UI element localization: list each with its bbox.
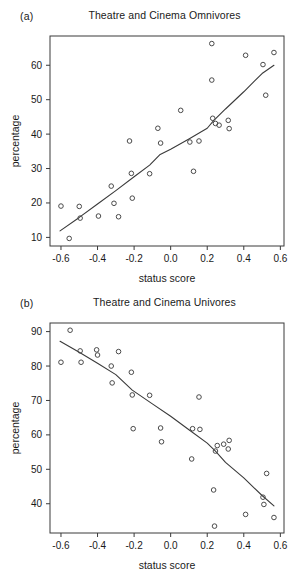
data-point [215,443,220,448]
panel-a-plot: -0.6-0.4-0.20.00.20.40.6102030405060stat… [0,0,307,288]
data-point [158,141,163,146]
data-point [188,140,193,145]
data-point [197,395,202,400]
plot-frame [50,36,284,246]
x-tick-label: 0.2 [200,540,214,551]
data-point [94,348,99,353]
x-tick-label: 0.0 [164,253,178,264]
data-point [59,360,64,365]
data-point [209,41,214,46]
x-tick-label: 0.2 [200,253,214,264]
data-point [264,471,269,476]
data-point [243,53,248,58]
x-tick-label: 0.0 [164,540,178,551]
data-point [77,204,82,209]
fit-line [60,65,274,231]
data-point [226,118,231,123]
x-tick-label: -0.4 [89,540,107,551]
data-point [158,426,163,431]
data-point [190,426,195,431]
x-tick-label: -0.6 [52,253,70,264]
data-point [191,169,196,174]
data-point [147,393,152,398]
y-tick-label: 60 [31,429,43,440]
x-tick-label: -0.2 [125,253,143,264]
x-tick-label: -0.4 [89,253,107,264]
data-point [112,201,117,206]
data-point [68,328,73,333]
y-tick-label: 50 [31,94,43,105]
y-axis-label: percentage [9,402,21,455]
data-point [211,488,216,493]
data-point [156,126,161,131]
data-point [130,393,135,398]
data-point [210,116,215,121]
x-tick-label: 0.4 [237,540,251,551]
data-point [147,171,152,176]
data-point [159,439,164,444]
data-point [227,438,232,443]
data-point [116,214,121,219]
y-tick-label: 40 [31,129,43,140]
y-tick-label: 50 [31,464,43,475]
data-point [209,78,214,83]
y-tick-label: 80 [31,361,43,372]
data-point [116,349,121,354]
data-point [59,204,64,209]
y-tick-label: 90 [31,326,43,337]
panel-b: (b) Theatre and Cinema Univores -0.6-0.4… [0,287,307,575]
data-point [129,370,134,375]
data-point [198,427,203,432]
data-point [226,447,231,452]
data-point [178,108,183,113]
data-point [127,139,132,144]
data-point [243,512,248,517]
y-tick-label: 30 [31,163,43,174]
data-point [110,381,115,386]
x-tick-label: -0.6 [52,540,70,551]
panel-a: (a) Theatre and Cinema Omnivores -0.6-0.… [0,0,307,288]
data-point [79,360,84,365]
x-tick-label: 0.4 [237,253,251,264]
data-point [67,236,72,241]
data-point [272,50,277,55]
data-point [221,442,226,447]
data-point [129,171,134,176]
y-axis-label: percentage [9,115,21,168]
y-tick-label: 40 [31,498,43,509]
data-point [96,214,101,219]
x-tick-label: 0.6 [273,253,287,264]
x-tick-label: -0.2 [125,540,143,551]
data-point [131,426,136,431]
data-point [109,364,114,369]
y-tick-label: 60 [31,60,43,71]
fit-line [60,341,274,506]
y-tick-label: 70 [31,395,43,406]
data-point [272,515,277,520]
data-point [262,502,267,507]
data-point [261,62,266,67]
y-tick-label: 20 [31,197,43,208]
data-point [95,353,100,358]
plot-frame [50,323,284,533]
x-axis-label: status score [139,272,196,284]
data-point [109,184,114,189]
x-axis-label: status score [139,559,196,571]
data-point [189,457,194,462]
data-point [227,126,232,131]
data-point [130,196,135,201]
x-tick-label: 0.6 [273,540,287,551]
data-point [263,93,268,98]
data-point [212,524,217,529]
y-tick-label: 10 [31,232,43,243]
panel-b-plot: -0.6-0.4-0.20.00.20.40.6405060708090stat… [0,287,307,575]
data-point [197,139,202,144]
